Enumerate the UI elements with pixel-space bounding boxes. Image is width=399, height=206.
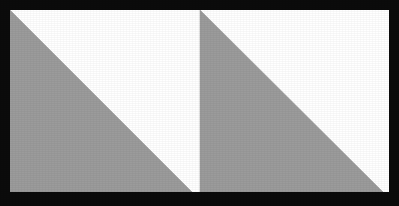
two-triangles-figure bbox=[0, 0, 399, 206]
frame-right-bar bbox=[389, 0, 399, 206]
frame-left-bar bbox=[0, 0, 10, 206]
frame-top-bar bbox=[0, 0, 399, 10]
figure-canvas: Two identical shaded right triangles sid… bbox=[0, 0, 399, 206]
frame-bottom-bar bbox=[0, 192, 399, 206]
